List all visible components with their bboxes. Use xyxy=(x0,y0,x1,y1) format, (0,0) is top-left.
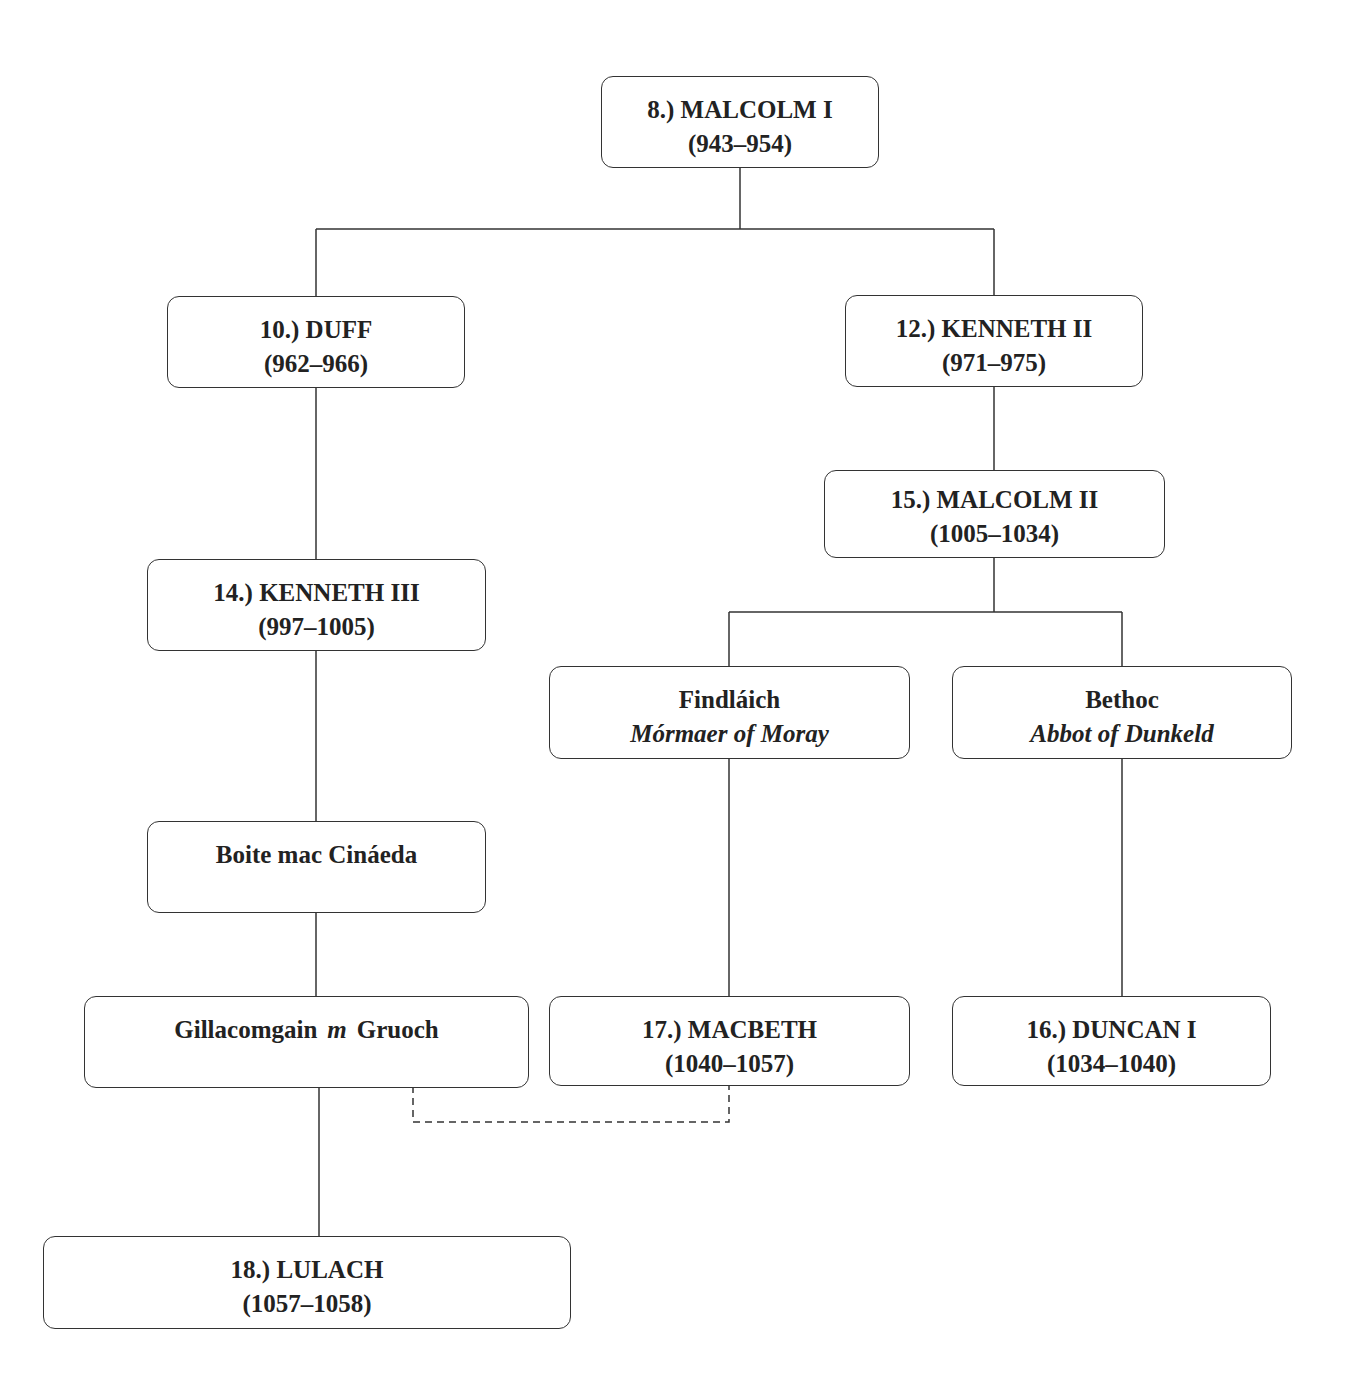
node-title: Bethoc xyxy=(1085,683,1159,717)
node-title: 14.) KENNETH III xyxy=(213,576,419,610)
node-name: Gillacomgain xyxy=(174,1016,317,1043)
node-duncan-i: 16.) DUNCAN I (1034–1040) xyxy=(952,996,1271,1086)
node-title: GillacomgainmGruoch xyxy=(174,1013,438,1047)
node-gillacomgain: GillacomgainmGruoch xyxy=(84,996,529,1088)
node-findlaich: Findláich Mórmaer of Moray xyxy=(549,666,910,759)
node-bethoc: Bethoc Abbot of Dunkeld xyxy=(952,666,1292,759)
node-boite: Boite mac Cináeda xyxy=(147,821,486,913)
node-lulach: 18.) LULACH (1057–1058) xyxy=(43,1236,571,1329)
node-reign: (971–975) xyxy=(942,346,1046,380)
node-reign: (1034–1040) xyxy=(1047,1047,1176,1081)
node-kenneth-ii: 12.) KENNETH II (971–975) xyxy=(845,295,1143,387)
node-title: 15.) MALCOLM II xyxy=(891,483,1099,517)
node-duff: 10.) DUFF (962–966) xyxy=(167,296,465,388)
node-title: 10.) DUFF xyxy=(260,313,372,347)
node-malcolm-i: 8.) MALCOLM I (943–954) xyxy=(601,76,879,168)
marriage-symbol: m xyxy=(327,1016,346,1043)
node-title: 16.) DUNCAN I xyxy=(1026,1013,1196,1047)
node-reign: (962–966) xyxy=(264,347,368,381)
node-title: 17.) MACBETH xyxy=(642,1013,817,1047)
node-role: Mórmaer of Moray xyxy=(630,717,829,751)
node-role: Abbot of Dunkeld xyxy=(1030,717,1213,751)
node-malcolm-ii: 15.) MALCOLM II (1005–1034) xyxy=(824,470,1165,558)
node-title: 18.) LULACH xyxy=(231,1253,384,1287)
node-reign: (943–954) xyxy=(688,127,792,161)
node-macbeth: 17.) MACBETH (1040–1057) xyxy=(549,996,910,1086)
node-reign: (997–1005) xyxy=(258,610,375,644)
node-reign: (1057–1058) xyxy=(242,1287,371,1321)
node-title: Findláich xyxy=(679,683,780,717)
node-reign: (1040–1057) xyxy=(665,1047,794,1081)
node-reign: (1005–1034) xyxy=(930,517,1059,551)
spouse-name: Gruoch xyxy=(357,1016,439,1043)
node-title: 8.) MALCOLM I xyxy=(647,93,832,127)
node-kenneth-iii: 14.) KENNETH III (997–1005) xyxy=(147,559,486,651)
node-title: 12.) KENNETH II xyxy=(896,312,1093,346)
node-title: Boite mac Cináeda xyxy=(216,838,417,872)
